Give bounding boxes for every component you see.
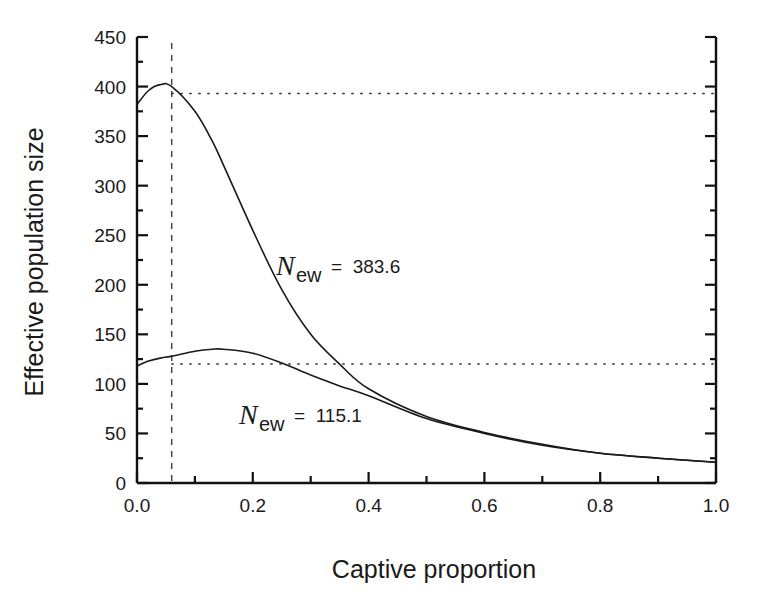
annotation-upper-value: = 383.6 <box>331 256 400 277</box>
y-tick-label: 450 <box>94 27 126 48</box>
y-tick-label: 200 <box>94 275 126 296</box>
series-line-lower <box>137 349 716 462</box>
x-tick-label: 0.8 <box>587 495 613 516</box>
tick-labels: 0501001502002503003504004500.00.20.40.60… <box>94 27 729 516</box>
y-tick-label: 300 <box>94 176 126 197</box>
annotation-lower-subscript: ew <box>259 413 285 435</box>
annotation-lower: N ew = 115.1 <box>238 399 362 435</box>
x-tick-label: 0.0 <box>124 495 150 516</box>
x-axis-title: Captive proportion <box>332 555 536 583</box>
x-tick-label: 1.0 <box>703 495 729 516</box>
x-tick-label: 0.2 <box>240 495 266 516</box>
x-tick-label: 0.6 <box>471 495 497 516</box>
y-tick-label: 250 <box>94 225 126 246</box>
y-tick-label: 50 <box>105 423 126 444</box>
x-tick-label: 0.4 <box>355 495 382 516</box>
y-tick-label: 0 <box>115 473 126 494</box>
y-tick-label: 350 <box>94 126 126 147</box>
annotation-upper-symbol: N <box>275 250 296 281</box>
annotation-lower-value: = 115.1 <box>294 405 362 426</box>
y-axis-title: Effective population size <box>20 127 48 396</box>
y-tick-label: 100 <box>94 374 126 395</box>
series-line-upper <box>137 84 716 463</box>
y-tick-label: 400 <box>94 77 126 98</box>
annotation-upper: N ew = 383.6 <box>275 250 400 286</box>
chart: 0501001502002503003504004500.00.20.40.60… <box>0 0 770 613</box>
annotation-lower-symbol: N <box>238 399 259 430</box>
annotation-upper-subscript: ew <box>296 264 322 286</box>
data-series <box>137 84 716 463</box>
y-tick-label: 150 <box>94 324 126 345</box>
